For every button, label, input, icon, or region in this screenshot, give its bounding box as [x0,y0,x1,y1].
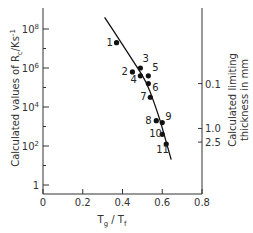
y-ticks: 1102104106108 [22,23,49,191]
data-point-label: 6 [152,82,158,93]
y-tick-label: 1 [33,180,39,191]
data-point [148,95,153,100]
data-point-label: 3 [142,53,148,64]
x-ticks: 00.20.40.60.8 [40,189,210,208]
x-tick-label: 0.6 [154,197,170,208]
data-point-label: 10 [149,128,162,139]
data-point-label: 5 [152,62,158,73]
y2-tick-label: 1.0 [205,123,221,134]
data-point-label: 9 [165,111,171,122]
data-point [138,73,143,78]
data-point-label: 4 [130,74,136,85]
x-tick-label: 0.4 [115,197,131,208]
data-point-label: 1 [107,37,113,48]
data-point-label: 7 [140,91,146,102]
x-tick-label: 0.2 [75,197,91,208]
y2-axis-title-line2: thickness in mm [239,59,250,141]
data-point [146,81,151,86]
data-point-label: 2 [121,66,127,77]
y-tick-label: 106 [22,62,40,74]
y-tick-label: 102 [22,140,39,152]
y2-tick-label: 2.5 [205,137,221,148]
axes [43,8,202,194]
data-point [160,120,165,125]
chart: 00.20.40.60.8 1102104106108 0.11.02.5 12… [0,0,253,233]
y-tick-label: 104 [22,101,40,113]
data-point [154,118,159,123]
y-tick-label: 108 [22,23,39,35]
data-points: 1234567891011 [107,37,172,155]
data-point [146,73,151,78]
x-tick-label: 0.8 [194,197,210,208]
data-point-label: 11 [156,144,169,155]
data-point [138,65,143,70]
data-point [114,40,119,45]
y2-axis-title-line1: Calculated limiting [227,53,238,147]
y2-ticks: 0.11.02.5 [198,79,221,149]
data-point-label: 8 [145,115,151,126]
x-tick-label: 0 [40,197,46,208]
y2-tick-label: 0.1 [205,79,221,90]
x-axis-title: Tg / Tf [97,214,127,228]
